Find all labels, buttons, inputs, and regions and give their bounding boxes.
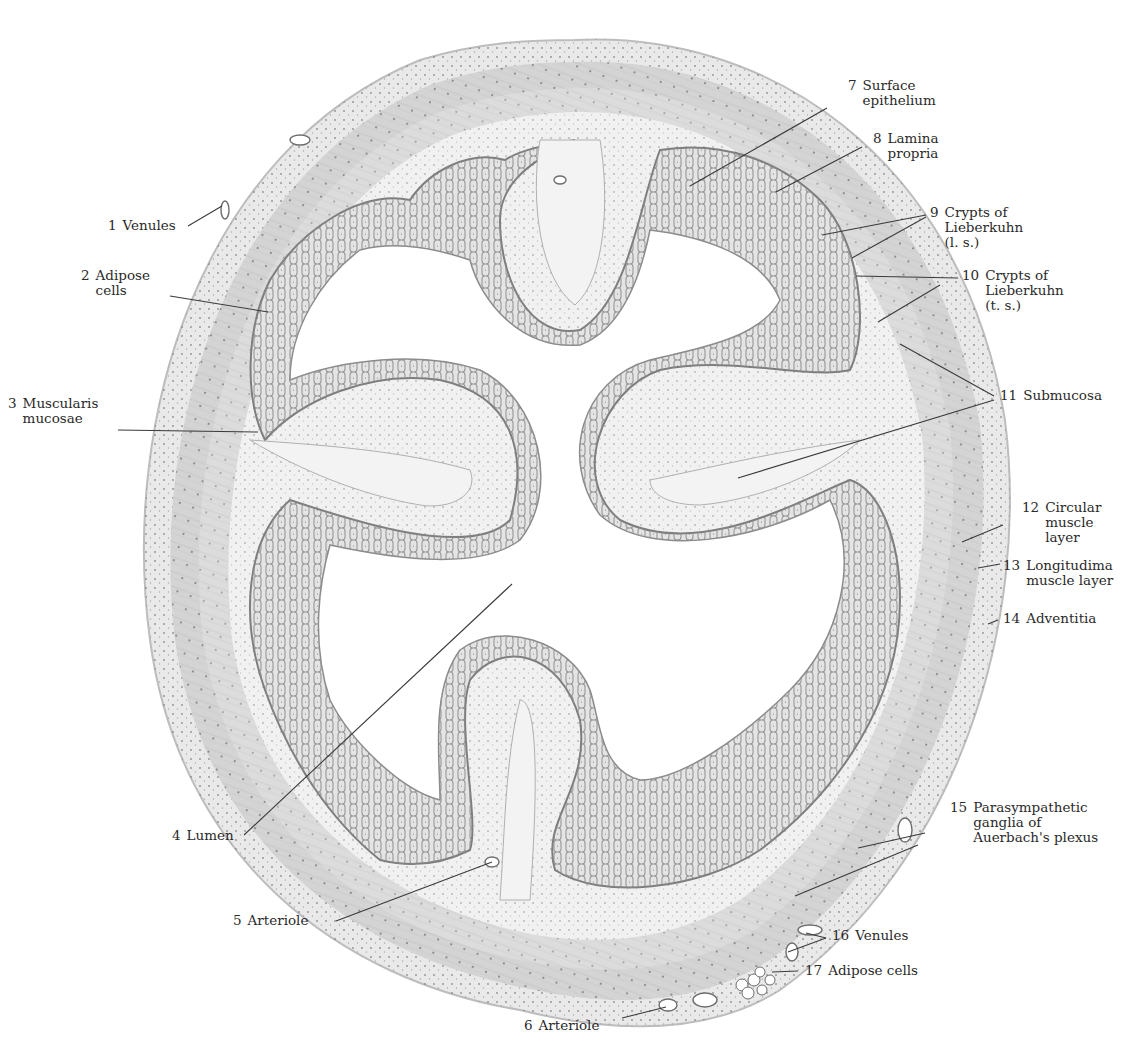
label-text: Laminapropria	[888, 131, 939, 161]
label-text: Parasympatheticganglia ofAuerbach's plex…	[973, 800, 1098, 845]
label-number: 10	[962, 268, 979, 283]
label-text-line: Adipose cells	[828, 963, 918, 978]
label-text-line: Parasympathetic	[973, 800, 1098, 815]
label-text: Arteriole	[539, 1018, 600, 1033]
label-number: 9	[930, 205, 939, 220]
label-text: Venules	[855, 928, 908, 943]
annotation-label-17: 17Adipose cells	[805, 963, 918, 978]
label-number: 11	[1000, 388, 1017, 403]
label-number: 5	[233, 913, 242, 928]
label-number: 8	[873, 131, 882, 146]
label-text: Crypts ofLieberkuhn(t. s.)	[985, 268, 1064, 313]
label-number: 14	[1003, 611, 1020, 626]
label-text: Adipose cells	[828, 963, 918, 978]
label-text: Adiposecells	[96, 268, 150, 298]
label-text: Longitudimamuscle layer	[1026, 558, 1113, 588]
label-text-line: layer	[1045, 530, 1101, 545]
annotation-label-8: 8Laminapropria	[873, 131, 938, 161]
label-text-line: ganglia of	[973, 815, 1098, 830]
leader-line-1	[188, 206, 222, 226]
annotation-label-5: 5Arteriole	[233, 913, 308, 928]
annotation-label-15: 15Parasympatheticganglia ofAuerbach's pl…	[950, 800, 1098, 845]
label-text-line: Lieberkuhn	[985, 283, 1064, 298]
label-number: 13	[1003, 558, 1020, 573]
label-number: 12	[1022, 500, 1039, 515]
label-text: Circularmusclelayer	[1045, 500, 1101, 545]
label-number: 3	[8, 396, 17, 411]
annotation-label-10: 10Crypts ofLieberkuhn(t. s.)	[962, 268, 1064, 313]
label-text: Surfaceepithelium	[863, 78, 936, 108]
label-text-line: Lumen	[187, 828, 234, 843]
label-text-line: cells	[96, 283, 150, 298]
label-text-line: Crypts of	[985, 268, 1064, 283]
label-text-line: Crypts of	[945, 205, 1024, 220]
annotation-label-2: 2Adiposecells	[81, 268, 150, 298]
label-text-line: muscle layer	[1026, 573, 1113, 588]
colon-cross-section-illustration	[0, 0, 1143, 1063]
label-text: Submucosa	[1023, 388, 1102, 403]
annotation-label-4: 4Lumen	[172, 828, 234, 843]
label-number: 6	[524, 1018, 533, 1033]
label-text-line: Lieberkuhn	[945, 220, 1024, 235]
label-text: Lumen	[187, 828, 234, 843]
label-text-line: Longitudima	[1026, 558, 1113, 573]
label-number: 15	[950, 800, 967, 815]
label-text-line: Surface	[863, 78, 936, 93]
label-text-line: (t. s.)	[985, 298, 1064, 313]
label-text-line: Lamina	[888, 131, 939, 146]
label-number: 2	[81, 268, 90, 283]
label-text-line: (l. s.)	[945, 235, 1024, 250]
annotation-label-12: 12Circularmusclelayer	[1022, 500, 1101, 545]
label-text-line: Auerbach's plexus	[973, 830, 1098, 845]
annotation-label-1: 1Venules	[108, 218, 176, 233]
label-text: Venules	[123, 218, 176, 233]
label-text: Arteriole	[248, 913, 309, 928]
label-text-line: epithelium	[863, 93, 936, 108]
label-text: Crypts ofLieberkuhn(l. s.)	[945, 205, 1024, 250]
label-text: Adventitia	[1026, 611, 1096, 626]
label-text: Muscularismucosae	[23, 396, 99, 426]
label-text-line: Venules	[855, 928, 908, 943]
annotation-label-14: 14Adventitia	[1003, 611, 1096, 626]
annotation-label-6: 6Arteriole	[524, 1018, 599, 1033]
label-number: 7	[848, 78, 857, 93]
label-text-line: Venules	[123, 218, 176, 233]
label-text-line: Adventitia	[1026, 611, 1096, 626]
annotation-label-16: 16Venules	[832, 928, 908, 943]
label-text-line: Arteriole	[539, 1018, 600, 1033]
label-text-line: Circular	[1045, 500, 1101, 515]
label-text-line: Arteriole	[248, 913, 309, 928]
label-text-line: Muscularis	[23, 396, 99, 411]
label-text-line: propria	[888, 146, 939, 161]
label-text-line: Adipose	[96, 268, 150, 283]
label-number: 16	[832, 928, 849, 943]
label-text-line: Submucosa	[1023, 388, 1102, 403]
annotation-label-11: 11Submucosa	[1000, 388, 1102, 403]
annotation-label-9: 9Crypts ofLieberkuhn(l. s.)	[930, 205, 1023, 250]
label-number: 1	[108, 218, 117, 233]
label-number: 4	[172, 828, 181, 843]
label-text-line: mucosae	[23, 411, 99, 426]
annotation-label-13: 13Longitudimamuscle layer	[1003, 558, 1113, 588]
annotation-label-7: 7Surfaceepithelium	[848, 78, 936, 108]
label-number: 17	[805, 963, 822, 978]
label-text-line: muscle	[1045, 515, 1101, 530]
annotation-label-3: 3Muscularismucosae	[8, 396, 98, 426]
